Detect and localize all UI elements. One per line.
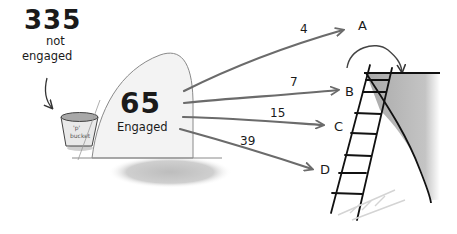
- engaged-label: Engaged: [117, 120, 168, 134]
- arrow-to-b: [184, 90, 338, 103]
- flow-arrows: [180, 30, 343, 169]
- not-engaged-count: 335: [24, 5, 81, 35]
- target-b: B: [345, 84, 354, 99]
- arrow-to-c: [183, 117, 323, 125]
- arrow-to-a: [184, 30, 343, 91]
- engaged-count: 65: [120, 87, 161, 120]
- arrow-to-bucket-icon: [45, 78, 52, 108]
- target-c: C: [334, 119, 343, 134]
- flow-value-d: 39: [240, 134, 255, 148]
- cliff: [364, 73, 457, 210]
- flow-value-a: 4: [300, 22, 308, 36]
- funnel-diagram: 335 not engaged 'p' bucket 65 Engaged 4 …: [0, 0, 457, 234]
- p-bucket-icon: 'p' bucket: [61, 113, 98, 152]
- flow-value-c: 15: [270, 106, 285, 120]
- hill-shadow: [108, 156, 232, 188]
- target-a: A: [358, 18, 367, 33]
- not-engaged-label-2: engaged: [22, 49, 72, 63]
- target-d: D: [320, 162, 330, 177]
- flow-value-b: 7: [290, 75, 298, 89]
- bucket-label-1: 'p': [73, 124, 80, 132]
- not-engaged-label-1: not: [46, 34, 65, 48]
- curved-arrow-icon: [347, 46, 402, 72]
